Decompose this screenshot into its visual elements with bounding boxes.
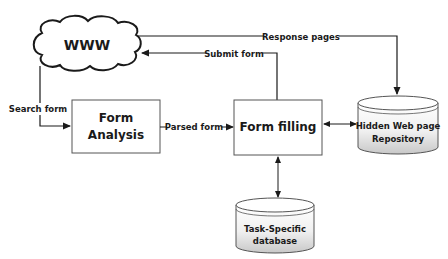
search-form-line [40, 66, 70, 126]
hidden-repo-label-line2: Repository [372, 134, 424, 144]
hidden-repo-cylinder-top [358, 96, 438, 110]
form-filling-node: Form filling [234, 100, 322, 155]
form-filling-label: Form filling [240, 120, 317, 134]
form-analysis-label-line2: Analysis [88, 128, 144, 142]
www-label: WWW [64, 37, 110, 53]
hidden-repo-node: Hidden Web page Repository [356, 96, 441, 154]
task-db-cylinder-top [236, 198, 314, 212]
form-analysis-node: Form Analysis [72, 100, 160, 153]
edge-search-form: Search form [9, 66, 70, 126]
hidden-repo-label-line1: Hidden Web page [356, 121, 441, 131]
edge-submit-form: Submit form [142, 47, 277, 100]
task-db-label-line1: Task-Specific [244, 224, 306, 234]
task-db-node: Task-Specific database [236, 198, 314, 253]
www-cloud-node: WWW [34, 16, 141, 71]
edge-response-pages: Response pages [138, 30, 397, 94]
edge-parsed-form: Parsed form [160, 121, 233, 133]
form-analysis-label-line1: Form [99, 111, 133, 125]
diagram-canvas: WWW Response pages Submit form Search fo… [0, 0, 448, 259]
submit-form-line [142, 53, 277, 100]
parsed-form-label: Parsed form [165, 122, 224, 132]
form-analysis-box [72, 100, 160, 153]
submit-form-label: Submit form [204, 49, 264, 59]
response-pages-line [138, 36, 397, 94]
search-form-label: Search form [9, 104, 68, 114]
task-db-label-line2: database [253, 236, 297, 246]
response-pages-label: Response pages [262, 32, 340, 42]
